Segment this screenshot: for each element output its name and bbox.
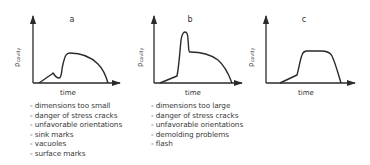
chart-a: a pcavity time <box>13 15 120 97</box>
panel-label: a <box>70 15 75 24</box>
cause-item: danger of stress cracks <box>30 111 122 121</box>
pressure-curves-figure: a pcavity time b pcavity time c pcavity … <box>0 0 370 100</box>
panel-label: b <box>187 15 192 24</box>
y-axis-label: pcavity <box>247 47 256 67</box>
x-axis-label: time <box>185 89 201 97</box>
pressure-curve <box>280 51 341 83</box>
pressure-curve <box>160 32 232 83</box>
x-axis-label: time <box>298 89 314 97</box>
cause-item: dimensions too small <box>30 101 122 111</box>
cause-item: vacuoles <box>30 139 122 149</box>
cause-item: demolding problems <box>151 130 243 140</box>
y-axis-label: pcavity <box>13 47 22 67</box>
cause-item: flash <box>151 139 243 149</box>
cause-item: dimensions too large <box>151 101 243 111</box>
cause-item: surface marks <box>30 149 122 159</box>
causes-list-a: dimensions too small danger of stress cr… <box>30 101 122 159</box>
cause-item: unfavorable orientations <box>151 120 243 130</box>
chart-b: b pcavity time <box>136 15 242 97</box>
cause-item: danger of stress cracks <box>151 111 243 121</box>
x-axis-label: time <box>60 89 76 97</box>
y-axis-label: pcavity <box>136 47 145 67</box>
cause-item: unfavorable orientations <box>30 120 122 130</box>
cause-item: sink marks <box>30 130 122 140</box>
chart-c: c pcavity time <box>247 15 355 97</box>
pressure-curve <box>39 53 108 83</box>
causes-list-b: dimensions too large danger of stress cr… <box>151 101 243 149</box>
panel-label: c <box>302 15 306 24</box>
